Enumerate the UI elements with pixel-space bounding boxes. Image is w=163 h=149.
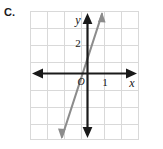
y-tick-label-2: 2 bbox=[75, 37, 81, 49]
x-axis-label: x bbox=[128, 76, 135, 90]
graph-svg: y x 2 1 O bbox=[30, 11, 139, 140]
y-axis-label: y bbox=[74, 13, 81, 27]
x-tick-label-1: 1 bbox=[102, 76, 108, 88]
origin-label: O bbox=[77, 76, 84, 87]
multiple-choice-graph-figure: C. bbox=[0, 0, 163, 149]
coordinate-graph: y x 2 1 O bbox=[30, 11, 139, 140]
choice-label: C. bbox=[4, 6, 15, 18]
